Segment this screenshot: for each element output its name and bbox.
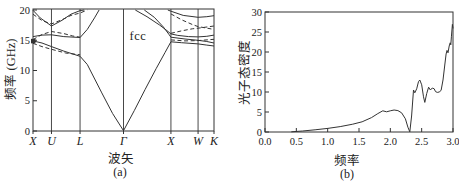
y-tick-label: 30 <box>252 7 263 18</box>
figure-panel: 05101520XULΓXWK0510152025300.00.51.01.52… <box>0 0 459 185</box>
dashed-low-XUL <box>33 43 80 55</box>
band-top-XUL <box>33 10 84 26</box>
y-tick-label: 5 <box>257 107 262 118</box>
y-tick-label: 10 <box>252 87 263 98</box>
y-tick-label: 10 <box>20 65 31 76</box>
dashed-up-XWK <box>171 26 214 33</box>
y-tick-label: 15 <box>20 35 31 46</box>
x-tick-label: 3.0 <box>446 136 459 147</box>
fcc-annotation: fcc <box>130 29 147 44</box>
dos-curve <box>291 24 453 131</box>
dos-chart-y-axis-label: 光子态密度 <box>234 40 253 105</box>
y-tick-label: 20 <box>20 5 31 16</box>
band-chart-y-axis-label: 频率 (GHz) <box>0 38 19 99</box>
x-tick-label: 0.0 <box>258 136 271 147</box>
band-2-XUL <box>33 10 99 38</box>
y-tick-label: 15 <box>252 67 263 78</box>
y-tick-label: 20 <box>252 47 263 58</box>
band-2-GXWK-lower <box>144 10 214 43</box>
x-tick-label: 2.0 <box>384 136 397 147</box>
x-tick-label: 2.5 <box>415 136 428 147</box>
kpoint-label: X <box>166 134 175 148</box>
kpoint-label: U <box>47 134 57 148</box>
x-tick-label: 0.5 <box>290 136 303 147</box>
caption-a: (a) <box>113 165 126 180</box>
x-tick-label: 1.5 <box>352 136 365 147</box>
y-tick-label: 5 <box>25 95 30 106</box>
kpoint-label: X <box>28 134 37 148</box>
figure-canvas: 05101520XULΓXWK0510152025300.00.51.01.52… <box>0 0 459 185</box>
kpoint-label: L <box>76 134 84 148</box>
y-tick-label: 25 <box>252 27 263 38</box>
band-marker-square <box>31 39 36 44</box>
band-top-XWK <box>168 10 214 17</box>
x-tick-label: 1.0 <box>321 136 334 147</box>
kpoint-label: W <box>193 134 204 148</box>
caption-b: (b) <box>340 167 354 182</box>
kpoint-label: Γ <box>119 134 128 148</box>
kpoint-label: K <box>209 134 219 148</box>
dos-chart-frame <box>265 12 453 132</box>
